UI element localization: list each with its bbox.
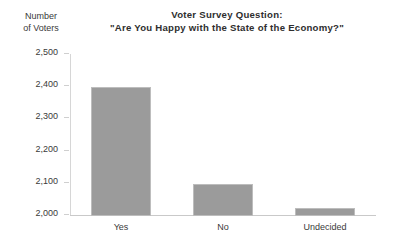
bar-group (91, 55, 151, 216)
y-axis-tick-label: 2,400 (0, 79, 58, 90)
y-axis-tick-mark (64, 117, 69, 118)
y-axis-tick-mark (64, 150, 69, 151)
y-axis-tick-mark (64, 182, 69, 183)
bar[interactable] (295, 208, 355, 216)
y-axis-tick-mark (64, 214, 69, 215)
x-axis-category-label: No (173, 222, 273, 233)
y-axis-tick-label: 2,200 (0, 144, 58, 155)
y-axis-tick-mark (64, 53, 69, 54)
chart-title-line-2: "Are You Happy with the State of the Eco… (72, 22, 382, 35)
x-axis-category-label: Yes (71, 222, 171, 233)
y-axis-title-line-1: Number (12, 11, 70, 23)
y-axis-title: Number of Voters (12, 11, 70, 34)
x-axis-category-label: Undecided (275, 222, 375, 233)
bar-group (193, 55, 253, 216)
bar-group (295, 55, 355, 216)
y-axis-tick-label: 2,100 (0, 176, 58, 187)
y-axis-tick-mark (64, 85, 69, 86)
chart-title: Voter Survey Question: "Are You Happy wi… (72, 9, 382, 34)
bar-chart: Voter Survey Question: "Are You Happy wi… (0, 0, 408, 251)
bar[interactable] (91, 87, 151, 216)
y-axis-tick-label: 2,000 (0, 208, 58, 219)
bar[interactable] (193, 184, 253, 216)
plot-area (70, 54, 376, 216)
y-axis-tick-label: 2,500 (0, 47, 58, 58)
chart-title-line-1: Voter Survey Question: (72, 9, 382, 22)
y-axis-title-line-2: of Voters (12, 23, 70, 35)
y-axis-tick-label: 2,300 (0, 111, 58, 122)
